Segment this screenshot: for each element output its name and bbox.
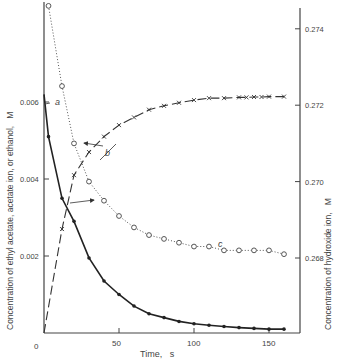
x-tick-label: 50 (112, 339, 121, 348)
label-c: c (218, 239, 223, 249)
y-left-tick-label: 0.006 (20, 98, 39, 107)
x-tick-label: 100 (187, 339, 201, 348)
arrow-b-right (70, 200, 94, 203)
y-right-tick-label: 0.268 (305, 254, 324, 263)
series-line-a (44, 94, 284, 329)
y-left-axis-label: Concentration of ethyl acetate, acetate … (5, 112, 15, 330)
x-ticks: 50100150 (112, 328, 276, 348)
y-right-axis-label: Concentration of hydroxide ion, M (323, 198, 333, 330)
y-left-tick-label: 0.002 (20, 252, 39, 261)
y-left-ticks: 0.0020.0040.006 (20, 98, 49, 261)
y-left-tick-label: 0.004 (20, 175, 39, 184)
y-right-tick-label: 0.270 (305, 178, 324, 187)
series-line-c (49, 6, 285, 254)
chart: 50100150 0.0020.0040.006 0.2680.2700.272… (0, 0, 340, 363)
plot-series (44, 3, 286, 333)
x-tick-label: 150 (262, 339, 276, 348)
x-axis-label: Time, s (140, 349, 175, 359)
series-line-b (44, 97, 284, 333)
label-a: a (55, 97, 60, 107)
y-right-ticks: 0.2680.2700.2720.274 (295, 25, 324, 263)
y-right-tick-label: 0.274 (305, 25, 324, 34)
y-right-tick-label: 0.272 (305, 101, 324, 110)
arrow-b-left (84, 143, 103, 146)
origin-label: 0 (34, 342, 39, 351)
